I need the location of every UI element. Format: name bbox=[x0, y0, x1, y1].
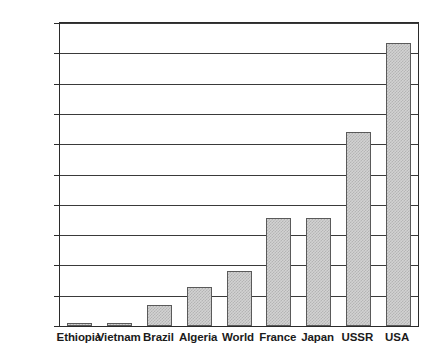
y-tick-10000 bbox=[54, 23, 60, 24]
bar-world[interactable] bbox=[227, 271, 252, 326]
bar-chart: 010002000300040005000600070008000900010,… bbox=[0, 0, 429, 356]
gridline-9000 bbox=[60, 53, 418, 54]
gridline-10000 bbox=[60, 23, 418, 24]
y-tick-4000 bbox=[54, 205, 60, 206]
y-tick-3000 bbox=[54, 235, 60, 236]
y-tick-0 bbox=[54, 326, 60, 327]
bar-algeria[interactable] bbox=[187, 287, 212, 326]
gridline-7000 bbox=[60, 114, 418, 115]
bar-brazil[interactable] bbox=[147, 305, 172, 326]
y-tick-8000 bbox=[54, 84, 60, 85]
y-tick-2000 bbox=[54, 265, 60, 266]
bar-japan[interactable] bbox=[306, 218, 331, 326]
gridline-8000 bbox=[60, 84, 418, 85]
bar-ussr[interactable] bbox=[346, 132, 371, 326]
y-tick-5000 bbox=[54, 175, 60, 176]
y-tick-6000 bbox=[54, 144, 60, 145]
y-tick-7000 bbox=[54, 114, 60, 115]
y-tick-9000 bbox=[54, 53, 60, 54]
bar-ethiopia[interactable] bbox=[67, 323, 92, 326]
x-axis-label-usa: USA bbox=[357, 331, 429, 343]
plot-area bbox=[59, 22, 419, 327]
bar-france[interactable] bbox=[266, 218, 291, 326]
y-tick-1000 bbox=[54, 296, 60, 297]
bar-usa[interactable] bbox=[386, 43, 411, 326]
gridline-0 bbox=[60, 326, 418, 327]
bar-vietnam[interactable] bbox=[107, 323, 132, 326]
